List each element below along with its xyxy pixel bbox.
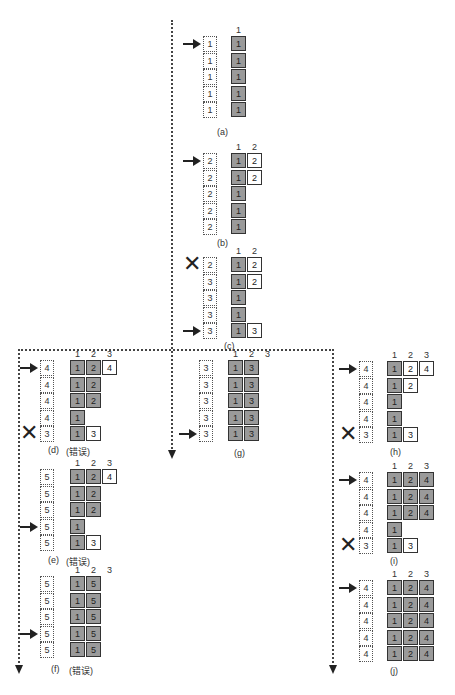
queue-cell: 1 [203, 86, 217, 102]
queue-cell: 5 [40, 486, 54, 502]
table-cell: 1 [387, 378, 402, 393]
queue-cell: 2 [203, 186, 217, 202]
queue-cell: 3 [203, 307, 217, 323]
column-header: 2 [403, 569, 418, 579]
queue-cell: 4 [359, 505, 373, 521]
column-header: 3 [102, 458, 117, 468]
column-header: 1 [231, 142, 246, 152]
queue-cell: 4 [359, 394, 373, 410]
queue-cell: 3 [203, 274, 217, 290]
table-cell: 1 [228, 360, 243, 375]
table-cell: 1 [231, 219, 246, 234]
table-cell: 4 [419, 630, 434, 645]
table-cell: 3 [244, 410, 259, 425]
queue-cell: 4 [359, 630, 373, 646]
tree-line-branch [18, 349, 334, 351]
table-cell: 2 [86, 360, 101, 375]
panel-caption: (b) [217, 238, 228, 248]
queue-cell: 5 [40, 576, 54, 592]
queue-cell: 3 [199, 410, 213, 426]
table-cell: 3 [244, 393, 259, 408]
queue-cell: 3 [359, 538, 373, 554]
table-cell: 1 [228, 426, 243, 441]
queue-cell: 3 [199, 426, 213, 442]
table-cell: 1 [231, 203, 246, 218]
table-cell: 4 [419, 489, 434, 504]
queue-cell: 2 [203, 203, 217, 219]
table-cell: 4 [102, 360, 117, 375]
table-cell: 1 [231, 36, 246, 51]
column-header: 1 [228, 349, 243, 359]
table-cell: 1 [70, 593, 85, 608]
tree-line-left [18, 349, 20, 667]
table-cell: 1 [70, 609, 85, 624]
queue-cell: 5 [40, 593, 54, 609]
column-header: 2 [86, 458, 101, 468]
table-cell: 1 [387, 597, 402, 612]
arrow-down-icon [168, 450, 176, 459]
panel-caption: (e) [48, 555, 59, 565]
queue-cell: 3 [203, 290, 217, 306]
table-cell: 3 [86, 426, 101, 441]
panel-note: (错误) [66, 445, 90, 458]
table-cell: 1 [70, 410, 85, 425]
table-cell: 5 [86, 642, 101, 657]
queue-cell: 5 [40, 642, 54, 658]
queue-cell: 5 [40, 626, 54, 642]
table-cell: 2 [403, 597, 418, 612]
queue-cell: 3 [199, 393, 213, 409]
table-cell: 1 [387, 489, 402, 504]
panel-note: (错误) [69, 664, 93, 677]
table-cell: 4 [419, 361, 434, 376]
table-cell: 2 [247, 274, 262, 289]
arrow-right-icon [20, 633, 36, 635]
table-cell: 2 [403, 472, 418, 487]
reject-x-icon: ✕ [183, 255, 201, 273]
queue-cell: 5 [40, 609, 54, 625]
queue-cell: 3 [203, 323, 217, 339]
queue-cell: 4 [359, 489, 373, 505]
queue-cell: 4 [359, 361, 373, 377]
table-cell: 1 [387, 613, 402, 628]
arrow-right-icon [339, 479, 355, 481]
column-header: 1 [70, 349, 85, 359]
panel-caption: (j) [390, 666, 398, 676]
table-cell: 2 [86, 502, 101, 517]
table-cell: 1 [387, 394, 402, 409]
queue-cell: 5 [40, 535, 54, 551]
reject-x-icon: ✕ [20, 424, 38, 442]
arrow-right-icon [183, 330, 199, 332]
column-header: 1 [387, 569, 402, 579]
table-cell: 1 [387, 538, 402, 553]
table-cell: 1 [70, 486, 85, 501]
panel-caption: (a) [217, 127, 228, 137]
table-cell: 1 [231, 290, 246, 305]
table-cell: 2 [403, 613, 418, 628]
table-cell: 1 [387, 427, 402, 442]
table-cell: 3 [403, 538, 418, 553]
queue-cell: 2 [203, 170, 217, 186]
table-cell: 1 [228, 410, 243, 425]
panel-caption: (g) [234, 448, 245, 458]
queue-cell: 3 [199, 360, 213, 376]
table-cell: 1 [387, 505, 402, 520]
table-cell: 3 [86, 535, 101, 550]
queue-cell: 5 [40, 469, 54, 485]
table-cell: 1 [231, 53, 246, 68]
table-cell: 1 [387, 472, 402, 487]
column-header: 1 [387, 461, 402, 471]
column-header: 2 [247, 142, 262, 152]
column-header: 2 [86, 565, 101, 575]
table-cell: 3 [247, 323, 262, 338]
table-cell: 1 [70, 519, 85, 534]
column-header: 1 [231, 246, 246, 256]
table-cell: 1 [70, 469, 85, 484]
column-header: 1 [70, 458, 85, 468]
table-cell: 1 [70, 642, 85, 657]
arrow-right-icon [20, 526, 36, 528]
reject-x-icon: ✕ [339, 425, 357, 443]
column-header: 1 [70, 565, 85, 575]
table-cell: 1 [231, 323, 246, 338]
queue-cell: 4 [359, 411, 373, 427]
arrow-right-icon [20, 367, 36, 369]
